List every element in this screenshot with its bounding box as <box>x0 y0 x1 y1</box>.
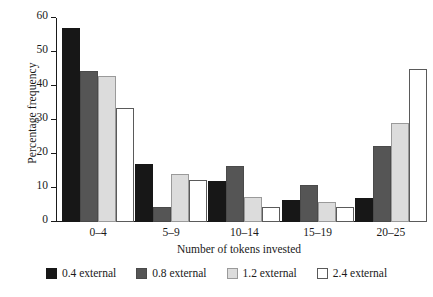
x-axis-tick-label: 10–14 <box>204 226 284 238</box>
bar <box>135 164 153 222</box>
bar <box>262 207 280 222</box>
bar <box>116 108 134 222</box>
y-axis-tick-label: 30 <box>37 111 49 123</box>
y-axis-tick-label: 40 <box>37 77 49 89</box>
bar-group <box>135 18 207 222</box>
bar <box>409 69 427 222</box>
bar <box>391 123 409 222</box>
y-axis-tick: 10 <box>51 187 56 188</box>
bar <box>355 198 373 222</box>
y-axis-tick: 60 <box>51 17 56 18</box>
legend-label: 0.8 external <box>152 267 206 279</box>
bar <box>300 185 318 222</box>
y-axis-tick: 50 <box>51 51 56 52</box>
bar-group <box>208 18 280 222</box>
legend-label: 1.2 external <box>243 267 297 279</box>
bar-group <box>282 18 354 222</box>
legend-label: 0.4 external <box>62 267 116 279</box>
bar <box>208 181 226 222</box>
bar <box>80 71 98 222</box>
y-axis-tick-label: 0 <box>42 213 48 225</box>
y-axis-tick-label: 60 <box>37 9 49 21</box>
bar <box>171 174 189 222</box>
bar <box>98 76 116 222</box>
y-axis-line <box>56 18 57 222</box>
bar <box>318 202 336 222</box>
y-axis-tick-label: 20 <box>37 145 49 157</box>
legend-swatch-icon <box>227 268 238 279</box>
bar <box>373 146 391 223</box>
bar <box>226 166 244 222</box>
legend-swatch-icon <box>46 268 57 279</box>
y-axis-tick-label: 10 <box>37 179 49 191</box>
bar <box>189 180 207 223</box>
x-axis-tick-label: 5–9 <box>131 226 211 238</box>
legend-item: 1.2 external <box>227 267 297 279</box>
bar <box>282 200 300 222</box>
legend-swatch-icon <box>136 268 147 279</box>
x-axis-tick-label: 15–19 <box>278 226 358 238</box>
bar <box>62 28 80 222</box>
y-axis-tick-label: 50 <box>37 43 49 55</box>
x-axis-tick-label: 0–4 <box>58 226 138 238</box>
legend-item: 0.8 external <box>136 267 206 279</box>
bar <box>153 207 171 222</box>
bar <box>244 197 262 223</box>
y-axis-tick: 30 <box>51 119 56 120</box>
x-axis-title: Number of tokens invested <box>56 243 422 255</box>
legend-item: 0.4 external <box>46 267 116 279</box>
bar-group <box>62 18 134 222</box>
bar <box>336 207 354 222</box>
legend-item: 2.4 external <box>317 267 387 279</box>
bar-chart-figure: Percentage frequency 0102030405060 0–45–… <box>0 0 433 297</box>
y-axis-tick: 20 <box>51 153 56 154</box>
bar-group <box>355 18 427 222</box>
legend-label: 2.4 external <box>333 267 387 279</box>
legend-swatch-icon <box>317 268 328 279</box>
y-axis-tick: 40 <box>51 85 56 86</box>
plot-area: 0102030405060 0–45–910–1415–1920–25 <box>56 18 422 222</box>
chart-legend: 0.4 external0.8 external1.2 external2.4 … <box>0 267 433 279</box>
x-axis-tick-label: 20–25 <box>351 226 431 238</box>
y-axis-tick: 0 <box>51 221 56 222</box>
